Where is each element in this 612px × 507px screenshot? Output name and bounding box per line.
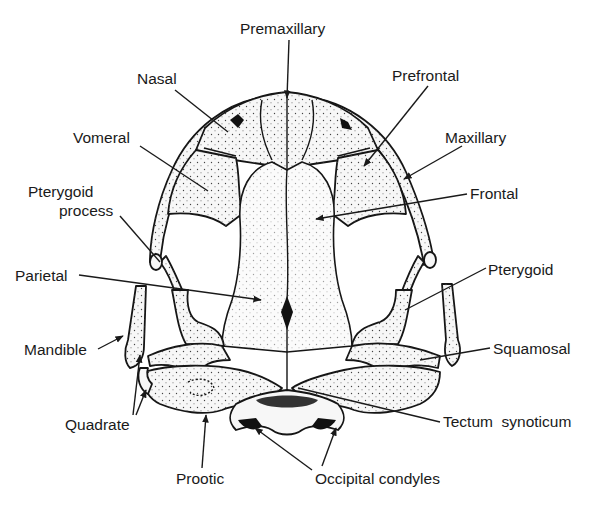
label-nasal: Nasal (137, 70, 177, 87)
pterygoid-left (172, 290, 224, 346)
leader-nasal (175, 90, 228, 132)
leader-premaxillary (287, 40, 289, 98)
label-pterygoid: Pterygoid (488, 261, 553, 278)
frog-skull-diagram: Premaxillary Nasal Prefrontal Maxillary … (0, 0, 612, 507)
pterygoid-right (352, 290, 412, 346)
label-tectum-synoticum: Tectum synoticum (443, 413, 571, 430)
label-vomeral: Vomeral (73, 129, 130, 146)
label-prefrontal: Prefrontal (392, 67, 459, 84)
label-squamosal: Squamosal (493, 340, 571, 357)
leader-maxillary (404, 146, 462, 179)
label-pterygoid-process-line2: process (59, 202, 114, 219)
label-frontal: Frontal (470, 185, 518, 202)
skull-drawing (125, 92, 460, 435)
label-premaxillary: Premaxillary (240, 20, 326, 37)
label-maxillary: Maxillary (445, 129, 506, 146)
frontoparietal (222, 162, 352, 390)
label-occipital-condyles: Occipital condyles (315, 470, 440, 487)
label-quadrate: Quadrate (65, 416, 130, 433)
leader-quadrate-b (136, 390, 146, 415)
label-pterygoid-process: Pterygoid process (28, 183, 114, 219)
label-parietal: Parietal (15, 267, 68, 284)
leader-occipital-b (322, 428, 336, 466)
leader-mandible (98, 336, 123, 349)
label-mandible: Mandible (24, 341, 87, 358)
mandible-left (125, 286, 146, 368)
label-prootic: Prootic (176, 470, 224, 487)
leader-prootic (202, 415, 206, 468)
label-pterygoid-process-line1: Pterygoid (28, 183, 93, 200)
